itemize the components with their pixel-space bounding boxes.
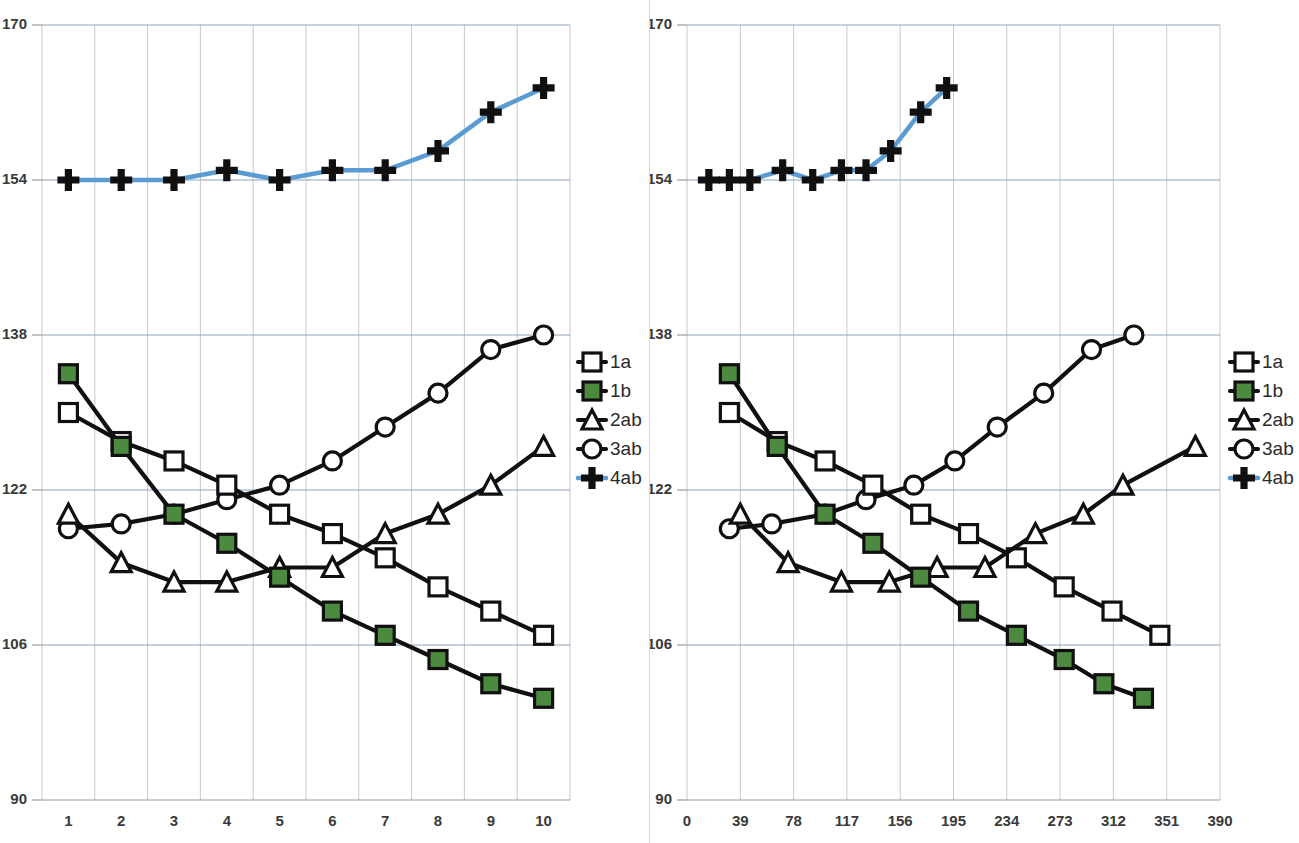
- x-tick-label: 9: [487, 812, 495, 829]
- data-point-marker: [720, 404, 738, 422]
- data-point-marker: [535, 626, 553, 644]
- y-tick-label: 138: [650, 325, 672, 342]
- series-line: [729, 335, 1134, 529]
- legend-label-1b: 1b: [1262, 380, 1283, 401]
- data-point-marker: [816, 452, 834, 470]
- data-point-marker: [271, 476, 289, 494]
- x-tick-label: 234: [994, 812, 1020, 829]
- data-point-marker: [1113, 475, 1133, 494]
- data-point-marker: [772, 159, 794, 181]
- data-point-marker: [1026, 524, 1046, 543]
- data-point-marker: [1083, 341, 1101, 359]
- data-point-marker: [323, 452, 341, 470]
- data-point-marker: [1235, 440, 1253, 458]
- x-tick-label: 4: [223, 812, 232, 829]
- data-point-marker: [946, 452, 964, 470]
- data-point-marker: [376, 549, 394, 567]
- data-point-marker: [1007, 626, 1025, 644]
- chart-panel-left: 90106122138154170123456789101a1b2ab3ab4a…: [0, 0, 650, 843]
- data-point-marker: [1055, 651, 1073, 669]
- data-point-marker: [429, 384, 447, 402]
- y-axis-ticks: 90106122138154170: [650, 15, 687, 807]
- data-point-marker: [58, 504, 78, 523]
- x-tick-label: 78: [785, 812, 802, 829]
- data-point-marker: [1095, 675, 1113, 693]
- x-tick-label: 3: [170, 812, 178, 829]
- data-point-marker: [763, 515, 781, 533]
- data-point-marker: [988, 418, 1006, 436]
- data-point-marker: [1151, 626, 1169, 644]
- data-point-marker: [218, 534, 236, 552]
- legend-label-1b: 1b: [610, 380, 631, 401]
- gridlines: [687, 25, 1220, 800]
- data-point-marker: [912, 568, 930, 586]
- x-tick-label: 2: [117, 812, 125, 829]
- data-point-marker: [374, 159, 396, 181]
- data-point-marker: [112, 437, 130, 455]
- data-point-marker: [376, 626, 394, 644]
- x-tick-label: 195: [941, 812, 966, 829]
- data-point-marker: [534, 436, 554, 455]
- data-point-marker: [321, 159, 343, 181]
- data-point-marker: [323, 525, 341, 543]
- data-point-marker: [533, 77, 555, 99]
- x-axis-ticks: 03978117156195234273312351390: [683, 812, 1233, 829]
- data-point-marker: [768, 437, 786, 455]
- data-point-marker: [482, 602, 500, 620]
- x-tick-label: 351: [1154, 812, 1179, 829]
- x-tick-label: 10: [535, 812, 552, 829]
- data-point-marker: [535, 689, 553, 707]
- data-point-marker: [482, 675, 500, 693]
- x-tick-label: 312: [1101, 812, 1126, 829]
- data-point-marker: [428, 504, 448, 523]
- series-1b: [720, 365, 1152, 708]
- legend-label-3ab: 3ab: [1262, 438, 1294, 459]
- data-point-marker: [59, 365, 77, 383]
- data-point-marker: [960, 525, 978, 543]
- data-point-marker: [376, 418, 394, 436]
- data-point-marker: [218, 476, 236, 494]
- legend-label-2ab: 2ab: [1262, 409, 1294, 430]
- y-tick-label: 106: [2, 635, 27, 652]
- data-point-marker: [535, 326, 553, 344]
- data-point-marker: [269, 169, 291, 191]
- data-point-marker: [720, 365, 738, 383]
- data-point-marker: [429, 578, 447, 596]
- x-tick-label: 8: [434, 812, 442, 829]
- data-point-marker: [110, 169, 132, 191]
- data-point-marker: [163, 169, 185, 191]
- data-point-marker: [864, 476, 882, 494]
- data-point-marker: [960, 602, 978, 620]
- data-point-marker: [718, 169, 740, 191]
- legend: 1a1b2ab3ab4ab: [1230, 351, 1294, 489]
- data-point-marker: [271, 505, 289, 523]
- data-point-marker: [1235, 382, 1253, 400]
- data-point-marker: [730, 504, 750, 523]
- y-tick-label: 154: [2, 170, 28, 187]
- legend-label-1a: 1a: [610, 351, 632, 372]
- legend: 1a1b2ab3ab4ab: [578, 351, 642, 489]
- data-point-marker: [905, 476, 923, 494]
- x-axis-ticks: 12345678910: [64, 812, 552, 829]
- data-point-marker: [583, 382, 601, 400]
- series-line: [729, 374, 1143, 699]
- data-point-marker: [57, 169, 79, 191]
- x-tick-label: 5: [275, 812, 283, 829]
- x-tick-label: 7: [381, 812, 389, 829]
- data-point-marker: [216, 159, 238, 181]
- data-point-marker: [802, 169, 824, 191]
- data-point-marker: [1185, 436, 1205, 455]
- data-point-marker: [59, 404, 77, 422]
- data-point-marker: [830, 159, 852, 181]
- data-point-marker: [581, 467, 603, 489]
- legend-label-4ab: 4ab: [610, 467, 642, 488]
- y-tick-label: 122: [2, 480, 27, 497]
- data-point-marker: [165, 505, 183, 523]
- y-tick-label: 90: [10, 790, 27, 807]
- x-tick-label: 390: [1207, 812, 1232, 829]
- data-point-marker: [583, 440, 601, 458]
- y-axis-ticks: 90106122138154170: [2, 15, 42, 807]
- x-tick-label: 273: [1048, 812, 1073, 829]
- data-point-marker: [698, 169, 720, 191]
- x-tick-label: 156: [888, 812, 913, 829]
